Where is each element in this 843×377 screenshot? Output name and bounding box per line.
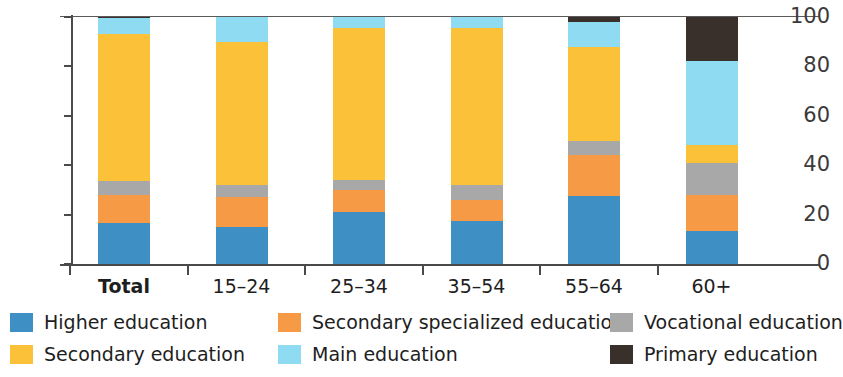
x-axis-tick-label: 60+: [652, 277, 772, 296]
bar-segment[interactable]: [216, 42, 268, 185]
bar-segment[interactable]: [98, 34, 150, 181]
legend-item[interactable]: Vocational education: [610, 312, 843, 332]
bar-segment[interactable]: [686, 145, 738, 162]
bar-segment[interactable]: [451, 17, 503, 28]
bar-segment[interactable]: [568, 17, 620, 22]
bar-segment[interactable]: [333, 17, 385, 28]
bar-segment[interactable]: [216, 197, 268, 227]
legend-item[interactable]: Secondary specialized education: [278, 312, 624, 332]
bar-segment[interactable]: [333, 180, 385, 190]
legend-item[interactable]: Higher education: [10, 312, 208, 332]
x-axis-tick-label: Total: [64, 277, 184, 296]
bar-segment[interactable]: [686, 195, 738, 231]
bar-segment[interactable]: [216, 17, 268, 42]
x-axis-tick: [422, 266, 424, 275]
bar-segment[interactable]: [568, 196, 620, 264]
bar-segment[interactable]: [216, 185, 268, 197]
bar-stack[interactable]: [216, 17, 268, 264]
bar-stack[interactable]: [451, 17, 503, 264]
bar-segment[interactable]: [568, 141, 620, 156]
legend-color-swatch: [278, 313, 301, 332]
bar-segment[interactable]: [451, 185, 503, 200]
x-axis-tick: [304, 266, 306, 275]
bar-segment[interactable]: [686, 17, 738, 61]
legend-item[interactable]: Secondary education: [10, 344, 245, 364]
bar-segment[interactable]: [686, 163, 738, 195]
bar-segment[interactable]: [333, 190, 385, 212]
legend-color-swatch: [610, 313, 633, 332]
bar-segment[interactable]: [98, 17, 150, 18]
bar-segment[interactable]: [568, 155, 620, 196]
x-axis-tick-label: 55–64: [534, 277, 654, 296]
bar-segment[interactable]: [98, 181, 150, 195]
chart-legend: Higher educationSecondary educationSecon…: [0, 307, 830, 377]
legend-color-swatch: [278, 345, 301, 364]
legend-item[interactable]: Main education: [278, 344, 458, 364]
legend-label: Higher education: [44, 312, 208, 332]
x-axis-tick-label: 15–24: [182, 277, 302, 296]
x-axis-tick: [69, 266, 71, 275]
bar-segment[interactable]: [98, 18, 150, 34]
legend-item[interactable]: Primary education: [610, 344, 818, 364]
legend-label: Secondary education: [44, 344, 245, 364]
legend-label: Secondary specialized education: [312, 312, 624, 332]
bar-segment[interactable]: [686, 61, 738, 145]
bar-segment[interactable]: [686, 231, 738, 264]
bar-segment[interactable]: [98, 195, 150, 223]
bar-stack[interactable]: [333, 17, 385, 264]
legend-color-swatch: [10, 313, 33, 332]
bar-segment[interactable]: [333, 212, 385, 264]
x-axis-line: [60, 264, 820, 266]
bar-segment[interactable]: [451, 221, 503, 264]
legend-color-swatch: [10, 345, 33, 364]
legend-label: Main education: [312, 344, 458, 364]
bar-segment[interactable]: [451, 28, 503, 185]
bar-stack[interactable]: [568, 17, 620, 264]
plot-area: [72, 17, 808, 264]
bar-segment[interactable]: [568, 47, 620, 141]
bar-segment[interactable]: [568, 22, 620, 47]
x-axis-tick: [539, 266, 541, 275]
bar-stack[interactable]: [98, 17, 150, 264]
bar-segment[interactable]: [333, 28, 385, 180]
x-axis-tick: [187, 266, 189, 275]
bar-segment[interactable]: [451, 200, 503, 221]
bar-segment[interactable]: [216, 227, 268, 264]
legend-label: Primary education: [644, 344, 818, 364]
legend-label: Vocational education: [644, 312, 843, 332]
bar-stack[interactable]: [686, 17, 738, 264]
x-axis-tick-label: 35–54: [417, 277, 537, 296]
x-axis-tick-label: 25–34: [299, 277, 419, 296]
legend-color-swatch: [610, 345, 633, 364]
x-axis-tick: [657, 266, 659, 275]
bar-segment[interactable]: [98, 223, 150, 264]
